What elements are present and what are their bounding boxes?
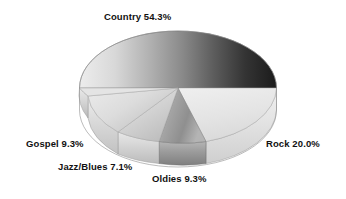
slice-label-oldies: Oldies 9.3% — [152, 173, 206, 184]
slice-label-jazz-blues: Jazz/Blues 7.1% — [58, 161, 132, 172]
slice-label-gospel: Gospel 9.3% — [26, 138, 84, 149]
pie-chart-svg — [0, 0, 346, 199]
slice-label-country: Country 54.3% — [104, 11, 171, 22]
pie-top-faces — [80, 31, 277, 143]
slice-label-rock: Rock 20.0% — [266, 138, 320, 149]
slice-wall-oldies — [159, 142, 206, 166]
slice-country — [80, 31, 277, 88]
pie-chart: Country 54.3% Rock 20.0% Oldies 9.3% Gos… — [0, 0, 346, 199]
